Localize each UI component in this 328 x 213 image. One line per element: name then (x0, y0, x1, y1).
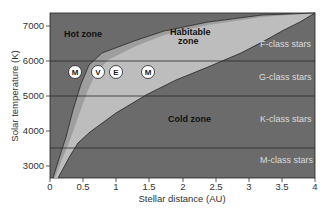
f-class-label: F-class stars (260, 39, 312, 49)
y-tick-7000: 7000 (23, 20, 44, 31)
x-axis-title: Stellar distance (AU) (138, 193, 225, 204)
y-tick-4000: 4000 (23, 125, 44, 136)
x-tick-3: 3 (246, 181, 251, 192)
planet-earth-marker: E (110, 66, 123, 79)
hot-zone-label: Hot zone (64, 29, 102, 39)
y-tick-3000: 3000 (23, 160, 44, 171)
y-tick-5000: 5000 (23, 90, 44, 101)
svg-text:M: M (72, 68, 79, 77)
habitable-zone-chart: Hot zone Habitable zone Cold zone F-clas… (0, 0, 328, 213)
svg-text:E: E (113, 68, 119, 77)
planet-mercury-marker: M (69, 66, 82, 79)
k-class-label: K-class stars (260, 114, 312, 124)
y-axis-title: Solar temperature (K) (9, 50, 20, 141)
planet-venus-marker: V (92, 66, 105, 79)
x-tick-2.5: 2.5 (209, 181, 222, 192)
x-tick-4: 4 (312, 181, 317, 192)
x-tick-3.5: 3.5 (275, 181, 288, 192)
svg-text:M: M (145, 68, 152, 77)
g-class-label: G-class stars (259, 72, 312, 82)
y-tick-6000: 6000 (23, 55, 44, 66)
m-class-label: M-class stars (260, 155, 314, 165)
cold-zone-label: Cold zone (168, 114, 211, 124)
x-tick-1: 1 (113, 181, 118, 192)
x-tick-2: 2 (180, 181, 185, 192)
x-tick-1.5: 1.5 (142, 181, 155, 192)
planet-mars-marker: M (142, 66, 155, 79)
y-axis (46, 26, 50, 166)
habitable-zone-label-line2: zone (178, 36, 199, 46)
x-tick-0: 0 (47, 181, 52, 192)
svg-text:V: V (95, 68, 101, 77)
x-tick-0.5: 0.5 (76, 181, 89, 192)
